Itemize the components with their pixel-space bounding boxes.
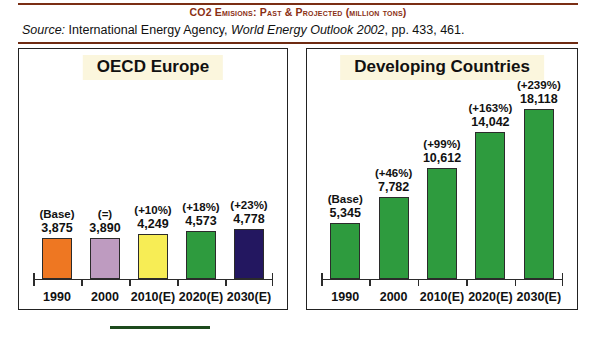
bar-rect — [42, 238, 72, 278]
bar-percent-label: (=) — [98, 208, 112, 220]
bar-value-label: 10,612 — [423, 151, 461, 165]
bar-item: (+239%)18,118 — [515, 79, 563, 279]
bar-item: (Base)3,875 — [33, 79, 81, 279]
axis-tick — [33, 280, 35, 286]
header-divider-rule — [18, 42, 578, 44]
bar-value-label: 18,118 — [520, 92, 558, 106]
axis-tick — [321, 280, 323, 286]
bar-percent-label: (+163%) — [469, 102, 513, 114]
bar-percent-label: (+10%) — [134, 204, 171, 216]
axis-tick — [466, 280, 468, 286]
bar-rect — [330, 223, 360, 279]
axis-tick — [225, 280, 227, 286]
bar-value-label: 4,573 — [185, 214, 216, 228]
x-axis-developing-countries — [321, 279, 563, 281]
chart-title-oecd-europe: OECD Europe — [83, 55, 223, 80]
axis-tick — [562, 280, 564, 286]
bar-percent-label: (Base) — [328, 193, 363, 205]
x-axis-oecd-europe — [33, 279, 273, 281]
x-axis-tick-label: 2010(E) — [129, 290, 177, 304]
x-axis-tick-label: 2030(E) — [225, 290, 273, 304]
bar-percent-label: (+99%) — [423, 138, 460, 150]
axis-cap-right — [562, 273, 564, 280]
chart-panel-oecd-europe: OECD Europe (Base)3,875(=)3,890(+10%)4,2… — [18, 48, 288, 310]
source-pages: , pp. 433, 461. — [385, 23, 465, 37]
x-axis-tick-label: 2000 — [81, 290, 129, 304]
source-label: Source: — [22, 23, 65, 37]
bar-value-label: 4,249 — [137, 217, 168, 231]
x-axis-labels-developing-countries: 199020002010(E)2020(E)2030(E) — [321, 290, 563, 304]
bar-rect — [475, 132, 505, 278]
bar-percent-label: (+46%) — [375, 167, 412, 179]
bar-item: (+46%)7,782 — [369, 79, 417, 279]
x-axis-tick-label: 2030(E) — [515, 290, 563, 304]
bar-item: (+18%)4,573 — [177, 79, 225, 279]
axis-cap-right — [272, 273, 274, 280]
axis-tick — [418, 280, 420, 286]
bar-item: (+23%)4,778 — [225, 79, 273, 279]
bar-rect — [138, 234, 168, 278]
tick-marks-oecd-europe — [33, 279, 273, 286]
bar-value-label: 14,042 — [471, 115, 509, 129]
x-axis-tick-label: 1990 — [33, 290, 81, 304]
bar-percent-label: (+18%) — [182, 201, 219, 213]
bar-group-developing-countries: (Base)5,345(+46%)7,782(+99%)10,612(+163%… — [321, 79, 563, 279]
axis-tick — [369, 280, 371, 286]
bar-value-label: 4,778 — [233, 212, 264, 226]
bar-rect — [90, 238, 120, 279]
bar-value-label: 3,875 — [41, 221, 72, 235]
bar-rect — [427, 168, 457, 279]
bar-item: (=)3,890 — [81, 79, 129, 279]
bar-value-label: 3,890 — [89, 221, 120, 235]
x-axis-tick-label: 2000 — [369, 290, 417, 304]
x-axis-labels-oecd-europe: 199020002010(E)2020(E)2030(E) — [33, 290, 273, 304]
bar-item: (+99%)10,612 — [418, 79, 466, 279]
bar-rect — [524, 109, 554, 279]
chart-panel-developing-countries: Developing Countries (Base)5,345(+46%)7,… — [306, 48, 578, 310]
bottom-green-rule — [110, 326, 210, 329]
axis-tick — [81, 280, 83, 286]
page-title: CO2 Emisions: Past & Projected (million … — [0, 6, 596, 18]
axis-tick — [515, 280, 517, 286]
bar-percent-label: (Base) — [39, 208, 74, 220]
axis-cap-left — [33, 273, 35, 280]
bar-percent-label: (+23%) — [230, 199, 267, 211]
bar-rect — [379, 197, 409, 278]
axis-cap-left — [321, 273, 323, 280]
bar-group-oecd-europe: (Base)3,875(=)3,890(+10%)4,249(+18%)4,57… — [33, 79, 273, 279]
bar-item: (Base)5,345 — [321, 79, 369, 279]
bar-percent-label: (+239%) — [517, 79, 561, 91]
chart-title-developing-countries: Developing Countries — [340, 55, 544, 80]
bar-rect — [234, 229, 264, 279]
top-divider-rule — [18, 3, 578, 5]
bar-item: (+163%)14,042 — [466, 79, 514, 279]
bar-value-label: 7,782 — [378, 180, 409, 194]
tick-marks-developing-countries — [321, 279, 563, 286]
source-agency: International Energy Agency, — [69, 23, 228, 37]
plot-area-developing-countries: (Base)5,345(+46%)7,782(+99%)10,612(+163%… — [317, 79, 567, 309]
source-citation: Source: International Energy Agency, Wor… — [22, 23, 464, 37]
axis-tick — [177, 280, 179, 286]
bar-item: (+10%)4,249 — [129, 79, 177, 279]
bar-rect — [186, 231, 216, 279]
x-axis-tick-label: 1990 — [321, 290, 369, 304]
x-axis-tick-label: 2020(E) — [177, 290, 225, 304]
x-axis-tick-label: 2020(E) — [466, 290, 514, 304]
plot-area-oecd-europe: (Base)3,875(=)3,890(+10%)4,249(+18%)4,57… — [29, 79, 277, 309]
bar-value-label: 5,345 — [330, 206, 361, 220]
axis-tick — [129, 280, 131, 286]
x-axis-tick-label: 2010(E) — [418, 290, 466, 304]
axis-tick — [272, 280, 274, 286]
source-publication: World Energy Outlook 2002 — [231, 23, 385, 37]
